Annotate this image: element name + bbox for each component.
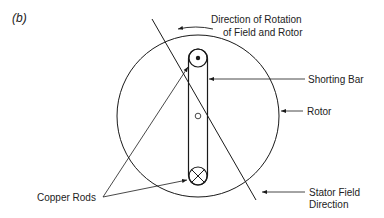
rotor-diagram: (b) Direction of Rotation of Field and R… [0,0,384,218]
shorting-bar [189,49,208,185]
current-out-dot-icon [196,56,200,60]
rotation-label-line2: of Field and Rotor [223,27,303,38]
panel-label: (b) [12,11,27,25]
rotation-arrow-icon [178,27,213,29]
copper-rods-pointer-bottom [103,180,187,197]
center-pivot-icon [195,113,201,119]
rotation-label-line1: Direction of Rotation [211,14,302,25]
current-in-cross-icon [192,170,205,183]
copper-rods-label: Copper Rods [37,192,96,203]
stator-field-line [152,19,256,200]
rotor-label: Rotor [307,106,332,117]
stator-field-label-line2: Direction [309,199,348,210]
shorting-bar-label: Shorting Bar [308,74,364,85]
stator-field-label-line1: Stator Field [309,187,360,198]
